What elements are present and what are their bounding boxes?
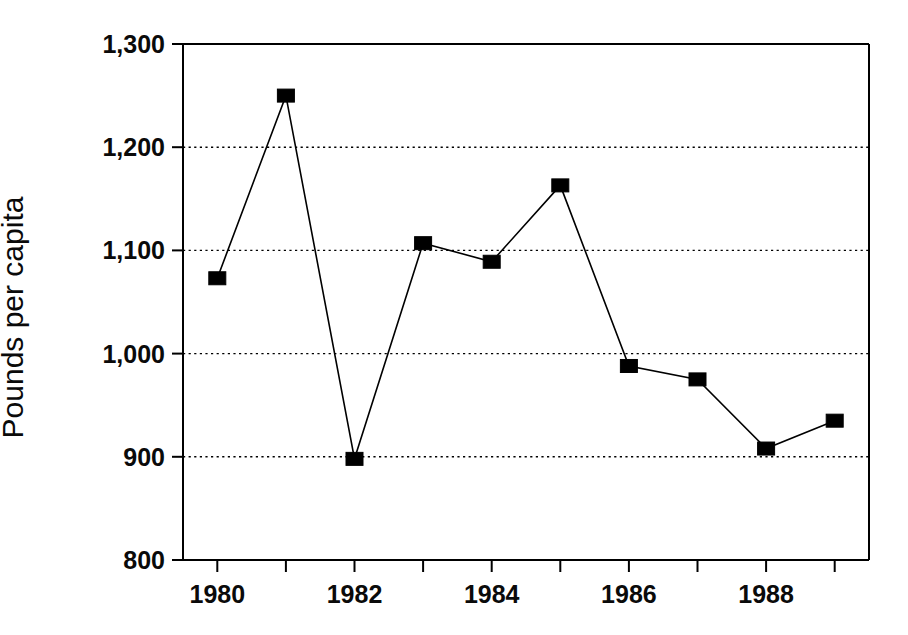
data-point-marker xyxy=(483,255,500,268)
line-chart-plot xyxy=(0,0,908,635)
series-line xyxy=(217,96,834,459)
chart-page: Pounds per capita 1,3001,2001,1001,00090… xyxy=(0,0,908,635)
data-point-marker xyxy=(552,179,569,192)
gridlines xyxy=(183,147,869,457)
axis-lines xyxy=(183,44,869,560)
data-point-marker xyxy=(209,272,226,285)
axis-ticks xyxy=(172,44,835,572)
data-point-marker xyxy=(346,452,363,465)
data-point-marker xyxy=(620,359,637,372)
data-point-marker xyxy=(758,442,775,455)
data-point-marker xyxy=(826,414,843,427)
data-point-marker xyxy=(277,89,294,102)
data-markers xyxy=(209,89,843,465)
data-point-marker xyxy=(415,237,432,250)
data-series xyxy=(217,96,834,459)
data-point-marker xyxy=(689,373,706,386)
